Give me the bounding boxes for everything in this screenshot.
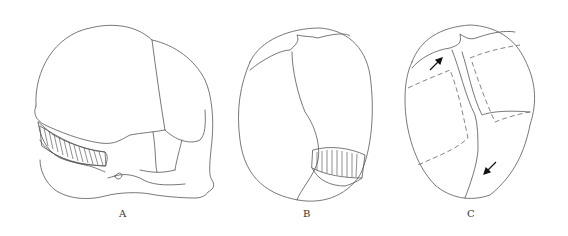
skull-illustration bbox=[0, 0, 568, 236]
arrow-up-icon bbox=[430, 58, 442, 70]
panel-label-a: A bbox=[119, 208, 126, 219]
hatched-band-b bbox=[312, 148, 365, 186]
panel-b-drawing bbox=[238, 28, 372, 201]
panel-label-c: C bbox=[467, 208, 475, 219]
arrow-down-icon bbox=[484, 162, 496, 174]
panel-label-b: B bbox=[303, 208, 310, 219]
hatched-band-a bbox=[40, 126, 106, 166]
panel-a-drawing bbox=[35, 25, 214, 198]
panel-c-drawing bbox=[405, 25, 535, 198]
